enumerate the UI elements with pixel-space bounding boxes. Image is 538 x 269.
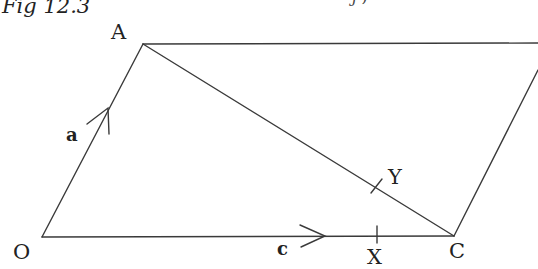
- cropped-text-fragment: j ,: [352, 0, 367, 5]
- vector-label-c: c: [277, 240, 288, 258]
- point-label-y: Y: [388, 167, 402, 188]
- vector-label-a: a: [66, 126, 78, 144]
- segment-top: [143, 43, 538, 44]
- segment-oc: [42, 236, 454, 237]
- segment-right: [454, 70, 538, 236]
- segment-ac: [143, 44, 454, 236]
- point-label-o: O: [13, 242, 30, 263]
- point-label-c: C: [449, 241, 465, 262]
- point-label-x: X: [367, 247, 382, 268]
- parallelogram-diagram: [0, 0, 538, 269]
- point-label-a: A: [111, 22, 126, 43]
- figure-caption: Fig 12.3: [2, 0, 90, 17]
- segment-oa: [42, 44, 143, 237]
